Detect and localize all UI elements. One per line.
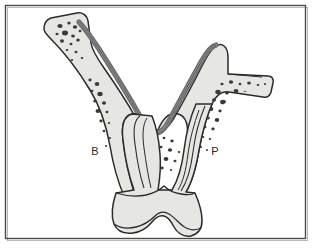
label-buccal: B — [91, 145, 98, 157]
label-palatal: P — [211, 145, 218, 157]
figure-root: B P — [0, 0, 316, 250]
anatomical-cross-section-diagram: B P — [0, 0, 316, 250]
